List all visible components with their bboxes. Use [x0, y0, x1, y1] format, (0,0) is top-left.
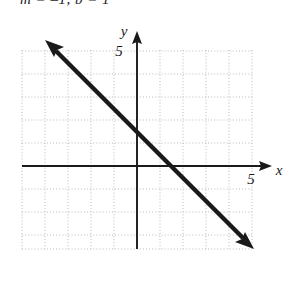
x-axis-label: x — [275, 162, 283, 178]
coordinate-graph: 5 5 y x — [0, 0, 300, 282]
plotted-line — [45, 40, 254, 249]
y-axis — [132, 31, 142, 249]
y-axis-tick-label-5: 5 — [115, 43, 123, 59]
y-axis-label: y — [119, 23, 128, 39]
x-axis-tick-label-5: 5 — [247, 171, 255, 187]
figure-canvas: m = –1, b = 1 — [0, 0, 300, 282]
x-axis — [22, 161, 272, 171]
